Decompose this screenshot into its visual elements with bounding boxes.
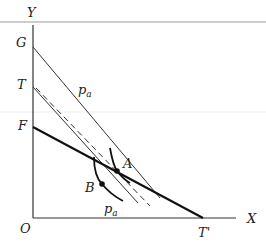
x-axis-label: X [246, 211, 257, 226]
point-B [99, 181, 105, 187]
label-A: A [122, 156, 132, 171]
label-B: B [84, 180, 95, 195]
point-A [114, 168, 120, 174]
label-pa-lower: pa [104, 201, 118, 218]
label-T-prime: T' [198, 225, 210, 240]
label-pa-upper: pa [78, 82, 92, 99]
y-axis-label: Y [27, 5, 37, 20]
label-F: F [17, 118, 28, 133]
diagram-canvas: Y X O G T F T' A B pa pa [0, 0, 266, 250]
label-G: G [16, 35, 26, 50]
origin-label: O [20, 221, 31, 236]
label-T: T [17, 77, 27, 92]
